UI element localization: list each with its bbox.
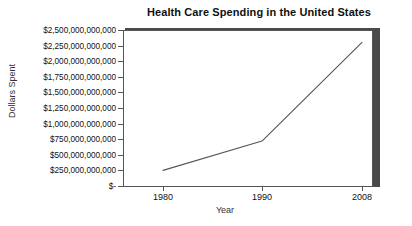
y-axis-tick <box>118 124 123 125</box>
chart-container: Health Care Spending in the United State… <box>0 0 412 226</box>
y-axis-tick <box>118 61 123 62</box>
y-axis-tick-label: $1,500,000,000,000 <box>22 88 116 97</box>
plot-frame-shadow-right <box>373 28 380 187</box>
y-axis-tick-label: $2,000,000,000,000 <box>22 57 116 66</box>
y-axis-tick <box>118 46 123 47</box>
x-axis-tick-label: 1980 <box>133 192 193 202</box>
y-axis-tick-label: $1,250,000,000,000 <box>22 104 116 113</box>
x-axis-tick <box>262 187 263 191</box>
y-axis-tick-label: $750,000,000,000 <box>22 135 116 144</box>
y-axis-tick <box>118 155 123 156</box>
x-axis-line <box>123 186 374 187</box>
x-axis-tick-label: 2008 <box>332 192 392 202</box>
y-axis-tick <box>118 92 123 93</box>
y-axis-tick <box>118 108 123 109</box>
x-axis-tick <box>163 187 164 191</box>
y-axis-tick <box>118 139 123 140</box>
x-axis-tick <box>362 187 363 191</box>
x-axis-tick-label: 1990 <box>232 192 292 202</box>
y-axis-tick-label: $250,000,000,000 <box>22 166 116 175</box>
y-axis-tick-label: $500,000,000,000 <box>22 150 116 159</box>
y-axis-tick-label: $1,000,000,000,000 <box>22 119 116 128</box>
y-axis-tick-label: $1,750,000,000,000 <box>22 72 116 81</box>
y-axis-tick-label: $2,250,000,000,000 <box>22 41 116 50</box>
y-axis-tick <box>118 186 123 187</box>
y-axis-tick-label: $- <box>22 182 116 191</box>
y-axis-line <box>123 30 124 187</box>
y-axis-tick <box>118 170 123 171</box>
y-axis-tick-label: $2,500,000,000,000 <box>22 26 116 35</box>
y-axis-title: Dollars Spent <box>7 51 17 131</box>
x-axis-title: Year <box>180 205 270 215</box>
chart-title: Health Care Spending in the United State… <box>118 6 400 18</box>
y-axis-tick <box>118 30 123 31</box>
y-axis-tick <box>118 77 123 78</box>
plot-area <box>123 30 373 186</box>
